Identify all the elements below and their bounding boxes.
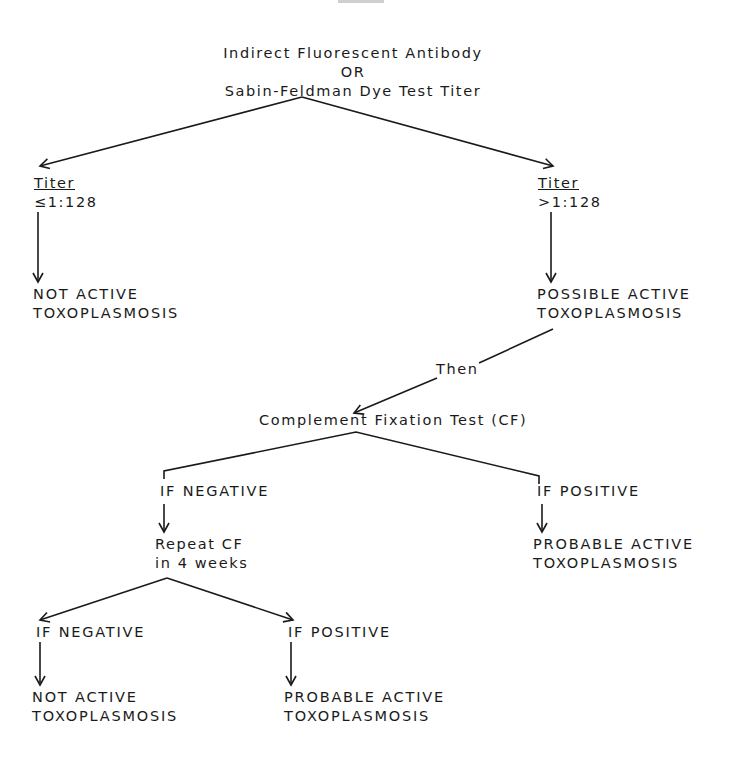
repeat-not-active-result-node: NOT ACTIVE TOXOPLASMOSIS: [32, 688, 178, 726]
cf-test-node: Complement Fixation Test (CF): [259, 411, 527, 430]
root-node: Indirect Fluorescent Antibody OR Sabin-F…: [208, 44, 498, 101]
possible-active-result-node: POSSIBLE ACTIVE TOXOPLASMOSIS: [537, 285, 691, 323]
cf-probable-active-result-node: PROBABLE ACTIVE TOXOPLASMOSIS: [533, 535, 694, 573]
repeat-cf-node: Repeat CF in 4 weeks: [155, 535, 248, 573]
left-titer-label: Titer: [34, 174, 98, 193]
left-titer-node: Titer ≤1:128: [34, 174, 98, 212]
possible-active-line-2: TOXOPLASMOSIS: [537, 304, 691, 323]
repeat-positive-node: IF POSITIVE: [288, 623, 391, 642]
not-active-line-2: TOXOPLASMOSIS: [33, 304, 179, 323]
right-titer-label: Titer: [538, 174, 602, 193]
root-line-1: Indirect Fluorescent Antibody: [208, 44, 498, 63]
repeat-not-active-line-1: NOT ACTIVE: [32, 688, 178, 707]
cf-negative-node: IF NEGATIVE: [160, 482, 269, 501]
repeat-probable-line-2: TOXOPLASMOSIS: [284, 707, 445, 726]
cf-positive-node: IF POSITIVE: [537, 482, 640, 501]
root-line-3: Sabin-Feldman Dye Test Titer: [208, 82, 498, 101]
right-titer-value: >1:128: [538, 193, 602, 212]
not-active-result-node: NOT ACTIVE TOXOPLASMOSIS: [33, 285, 179, 323]
left-titer-value: ≤1:128: [34, 193, 98, 212]
possible-active-line-1: POSSIBLE ACTIVE: [537, 285, 691, 304]
repeat-probable-active-result-node: PROBABLE ACTIVE TOXOPLASMOSIS: [284, 688, 445, 726]
cf-probable-line-1: PROBABLE ACTIVE: [533, 535, 694, 554]
repeat-negative-node: IF NEGATIVE: [36, 623, 145, 642]
root-line-2: OR: [208, 63, 498, 82]
cf-probable-line-2: TOXOPLASMOSIS: [533, 554, 694, 573]
not-active-line-1: NOT ACTIVE: [33, 285, 179, 304]
right-titer-node: Titer >1:128: [538, 174, 602, 212]
repeat-not-active-line-2: TOXOPLASMOSIS: [32, 707, 178, 726]
then-connector-label: Then: [436, 360, 479, 379]
repeat-probable-line-1: PROBABLE ACTIVE: [284, 688, 445, 707]
repeat-line-1: Repeat CF: [155, 535, 248, 554]
flowchart-connectors: [0, 0, 748, 763]
repeat-line-2: in 4 weeks: [155, 554, 248, 573]
